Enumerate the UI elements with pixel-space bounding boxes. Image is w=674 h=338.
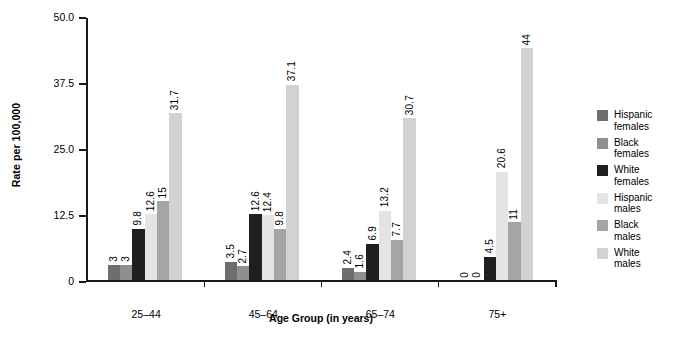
bar[interactable] — [366, 244, 378, 280]
bar-value-label: 12.6 — [251, 191, 261, 211]
bar-slot: 2.4 — [342, 18, 354, 280]
legend-color-swatch — [597, 110, 608, 121]
bar[interactable] — [403, 118, 415, 280]
bar-slot: 12.6 — [249, 18, 261, 280]
bar-slot: 9.8 — [274, 18, 286, 280]
bar-value-label: 1.6 — [355, 254, 365, 269]
legend-item-label: Hispanic females — [614, 109, 652, 132]
bar-slot: 3 — [120, 18, 132, 280]
bar-chart-figure: Rate per 100,000 012.525.037.550.0 339.8… — [0, 0, 674, 338]
bar-value-label: 20.6 — [497, 148, 507, 168]
bar-value-label: 30.7 — [405, 95, 415, 115]
bar-slot: 0 — [459, 18, 471, 280]
bar[interactable] — [484, 257, 496, 281]
bar-value-label: 0 — [460, 272, 470, 278]
bar-value-label: 2.4 — [343, 250, 353, 265]
bar-slot: 6.9 — [366, 18, 378, 280]
bar[interactable] — [120, 265, 132, 281]
bar[interactable] — [132, 229, 144, 281]
bar-slot: 30.7 — [403, 18, 415, 280]
y-axis-tick-mark — [79, 215, 86, 217]
bar[interactable] — [521, 48, 533, 280]
bar[interactable] — [286, 85, 298, 281]
bar-value-label: 9.8 — [133, 211, 143, 226]
bar[interactable] — [391, 240, 403, 281]
bar-value-label: 11 — [509, 209, 519, 220]
bar-value-label: 6.9 — [368, 226, 378, 241]
bar-slot: 12.4 — [262, 18, 274, 280]
bar-group: 004.520.61144 — [459, 18, 533, 280]
legend-color-swatch — [597, 138, 608, 149]
bar[interactable] — [496, 172, 508, 281]
legend-color-swatch — [597, 248, 608, 259]
bar[interactable] — [225, 262, 237, 280]
bar[interactable] — [157, 201, 169, 280]
legend-item[interactable]: Black males — [597, 219, 652, 242]
x-axis-tick-mark — [321, 280, 323, 287]
bar[interactable] — [249, 214, 261, 281]
bar-value-label: 9.8 — [275, 211, 285, 226]
bar-slot: 13.2 — [379, 18, 391, 280]
legend-item[interactable]: Black females — [597, 137, 652, 160]
bar-slot: 31.7 — [169, 18, 181, 280]
legend-color-swatch — [597, 220, 608, 231]
bar-value-label: 31.7 — [170, 90, 180, 110]
y-axis-tick-mark — [79, 17, 86, 19]
bar-value-label: 7.7 — [392, 222, 402, 237]
x-axis-tick-mark — [438, 280, 440, 287]
y-axis-tick-label: 50.0 — [54, 11, 74, 23]
legend-item-label: Hispanic males — [614, 192, 652, 215]
legend-item-label: Black females — [614, 137, 649, 160]
legend-item[interactable]: White females — [597, 164, 652, 187]
bar-value-label: 15 — [158, 187, 168, 199]
y-axis-tick-mark — [79, 149, 86, 151]
bar[interactable] — [379, 211, 391, 281]
y-axis-tick-label: 37.5 — [54, 77, 74, 89]
bar-value-label: 12.4 — [263, 192, 273, 212]
bar[interactable] — [342, 268, 354, 281]
legend-item-label: White males — [614, 247, 641, 270]
bar-group: 2.41.66.913.27.730.7 — [342, 18, 416, 280]
bar-slot: 15 — [157, 18, 169, 280]
bar[interactable] — [274, 229, 286, 281]
bar-value-label: 44 — [522, 34, 532, 46]
bar[interactable] — [354, 272, 366, 280]
y-axis-title: Rate per 100,000 — [6, 0, 26, 290]
legend-item[interactable]: Hispanic males — [597, 192, 652, 215]
x-axis-title: Age Group (in years) — [86, 312, 556, 324]
legend-color-swatch — [597, 165, 608, 176]
bar-slot: 3 — [108, 18, 120, 280]
y-axis-tick-label: 12.5 — [54, 209, 74, 221]
bar[interactable] — [145, 214, 157, 281]
bar-value-label: 3 — [121, 256, 131, 262]
x-axis-tick-mark — [555, 280, 557, 287]
bar-slot: 9.8 — [132, 18, 144, 280]
bar-groups: 339.812.61531.725–443.52.712.612.49.837.… — [88, 18, 556, 280]
bar[interactable] — [108, 265, 120, 281]
bar-value-label: 2.7 — [238, 249, 248, 264]
legend-item[interactable]: White males — [597, 247, 652, 270]
bar-value-label: 37.1 — [287, 61, 297, 81]
legend-item-label: Black males — [614, 219, 641, 242]
bar-group: 339.812.61531.7 — [108, 18, 182, 280]
bar-slot: 3.5 — [225, 18, 237, 280]
bar-slot: 0 — [471, 18, 483, 280]
bar[interactable] — [262, 215, 274, 280]
chart-legend: Hispanic femalesBlack femalesWhite femal… — [597, 109, 652, 274]
bar-slot: 37.1 — [286, 18, 298, 280]
bar-value-label: 3.5 — [226, 244, 236, 259]
bar-slot: 12.6 — [145, 18, 157, 280]
bar[interactable] — [237, 266, 249, 280]
bar[interactable] — [169, 113, 181, 280]
bar[interactable] — [508, 222, 520, 280]
legend-item[interactable]: Hispanic females — [597, 109, 652, 132]
bar-group: 3.52.712.612.49.837.1 — [225, 18, 299, 280]
bar-value-label: 12.6 — [146, 191, 156, 211]
plot-area: 012.525.037.550.0 339.812.61531.725–443.… — [86, 18, 556, 282]
bar-slot: 11 — [508, 18, 520, 280]
bar-slot: 7.7 — [391, 18, 403, 280]
y-axis-tick-label: 25.0 — [54, 143, 74, 155]
bar-slot: 1.6 — [354, 18, 366, 280]
y-axis-tick-label: 0 — [68, 275, 74, 287]
y-axis-tick-mark — [79, 83, 86, 85]
